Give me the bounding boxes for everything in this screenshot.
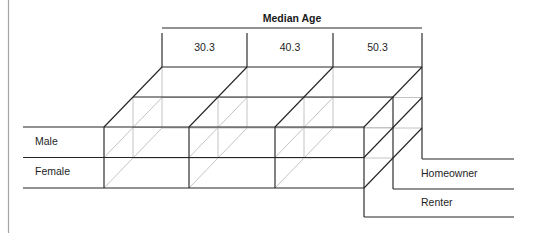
depth-label: Homeowner (421, 167, 478, 179)
row-label: Male (35, 135, 58, 147)
column-header: Median Age 30.3 40.3 50.3 (162, 12, 422, 67)
depth-labels: Homeowner Renter (421, 167, 478, 208)
column-label: 50.3 (367, 41, 388, 53)
depth-label: Renter (421, 196, 453, 208)
column-label: 40.3 (280, 41, 301, 53)
row-label: Female (35, 165, 70, 177)
column-label: 30.3 (194, 41, 215, 53)
cube-edges (23, 33, 514, 217)
data-cube-diagram: Median Age 30.3 40.3 50.3 Male Female (0, 0, 536, 233)
row-labels: Male Female (35, 135, 70, 177)
header-title: Median Age (263, 12, 322, 24)
